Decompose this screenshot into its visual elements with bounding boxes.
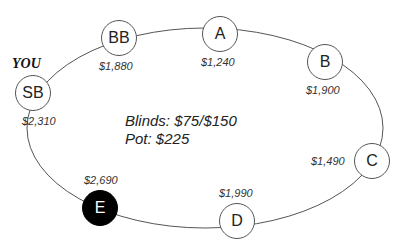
seat-label: A [215,25,226,43]
stack-b: $1,900 [306,84,340,96]
seat-d[interactable]: D [219,203,255,239]
stack-sb: $2,310 [22,115,56,127]
seat-c[interactable]: C [354,143,390,179]
seat-sb[interactable]: SB [15,75,51,111]
seat-label: BB [108,29,129,47]
seat-label: C [366,152,378,170]
stack-c: $1,490 [311,155,345,167]
stack-bb: $1,880 [99,60,133,72]
stack-d: $1,990 [219,187,253,199]
stack-e: $2,690 [84,174,118,186]
seat-b[interactable]: B [307,44,343,80]
game-info: Blinds: $75/$150 Pot: $225 [125,112,237,148]
seat-e[interactable]: E [82,190,118,226]
stack-a: $1,240 [201,56,235,68]
seat-label: E [95,199,106,217]
blinds-text: Blinds: $75/$150 [125,112,237,130]
hero-label: YOU [12,56,41,72]
seat-label: D [231,212,243,230]
seat-label: B [320,53,331,71]
pot-text: Pot: $225 [125,130,237,148]
seat-label: SB [22,84,43,102]
seat-a[interactable]: A [202,16,238,52]
seat-bb[interactable]: BB [101,20,137,56]
